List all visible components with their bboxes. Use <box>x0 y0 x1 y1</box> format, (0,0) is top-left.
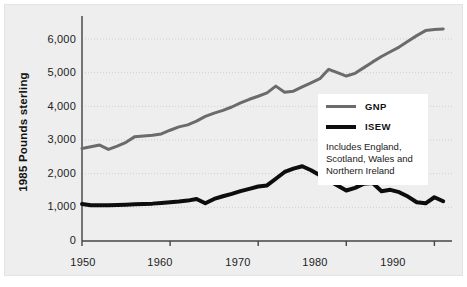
legend-note: Includes England, Scotland, Wales and No… <box>326 141 420 177</box>
legend-label-isew: ISEW <box>365 121 391 132</box>
legend-entry-gnp: GNP <box>326 101 420 112</box>
chart-figure: 1985 Pounds sterling 6,000 5,000 4,000 3… <box>0 0 467 287</box>
legend-label-gnp: GNP <box>365 101 387 112</box>
legend-swatch-isew <box>326 125 356 129</box>
legend-entry-isew: ISEW <box>326 121 420 132</box>
chart-legend: GNP ISEW Includes England, Scotland, Wal… <box>318 94 428 185</box>
legend-swatch-gnp <box>326 105 356 108</box>
